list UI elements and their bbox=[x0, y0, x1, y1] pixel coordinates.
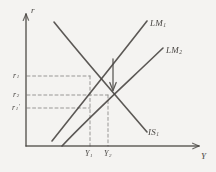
x-tick-Y2-text: Y bbox=[104, 149, 109, 158]
y-tick-r1p-text: r bbox=[12, 103, 15, 112]
lm1-curve-path bbox=[52, 21, 147, 141]
lm1-label-sub: 1 bbox=[163, 22, 166, 28]
is1-label-text: IS bbox=[148, 127, 156, 137]
lm1-curve-label: LM1 bbox=[150, 19, 166, 29]
y-tick-r2-sub: 2 bbox=[17, 93, 20, 98]
y-tick-r1-sub: 1 bbox=[17, 74, 20, 79]
lm-shift-arrow-path bbox=[110, 59, 116, 91]
lm2-label-text: LM bbox=[166, 45, 179, 55]
y-tick-r1p-prime: ' bbox=[18, 102, 20, 109]
x-tick-Y1: Y1 bbox=[85, 150, 93, 159]
lm1-label-text: LM bbox=[150, 18, 163, 28]
diagram-canvas bbox=[0, 0, 216, 172]
y-tick-r1-prime-label: r1' bbox=[12, 103, 20, 112]
is1-curve-label: IS1 bbox=[148, 128, 159, 138]
x-tick-Y1-sub: 1 bbox=[90, 153, 93, 158]
y-axis-line bbox=[23, 14, 28, 146]
y-tick-r2: r2 bbox=[13, 90, 19, 99]
x-axis-label: Y bbox=[201, 152, 206, 161]
isl-m-figure: r Y LM1 LM2 IS1 r1 r2 r1' Y1 Y2 bbox=[0, 0, 216, 172]
x-axis-line bbox=[26, 143, 199, 149]
is1-label-sub: 1 bbox=[156, 131, 159, 137]
y-tick-r2-text: r bbox=[13, 90, 16, 99]
y-tick-r1-text: r bbox=[13, 71, 16, 80]
lm2-curve-label: LM2 bbox=[166, 46, 182, 56]
y-tick-r1: r1 bbox=[13, 71, 19, 80]
lm2-label-sub: 2 bbox=[179, 49, 182, 55]
y-axis-label: r bbox=[31, 6, 35, 15]
x-tick-Y2: Y2 bbox=[104, 150, 112, 159]
x-tick-Y1-text: Y bbox=[85, 149, 90, 158]
x-tick-Y2-sub: 2 bbox=[109, 153, 112, 158]
